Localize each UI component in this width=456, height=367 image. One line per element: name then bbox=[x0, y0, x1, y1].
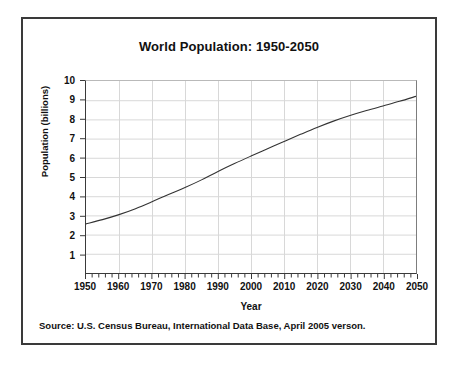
x-tick-label-2010: 2010 bbox=[273, 281, 295, 292]
x-tick-label-2000: 2000 bbox=[240, 281, 262, 292]
x-tick-label-1990: 1990 bbox=[207, 281, 229, 292]
y-tick-label-3: 3 bbox=[69, 210, 75, 221]
source-note: Source: U.S. Census Bureau, Internationa… bbox=[39, 320, 365, 331]
x-tick-label-2020: 2020 bbox=[306, 281, 328, 292]
y-tick-label-10: 10 bbox=[64, 75, 75, 86]
x-tick-label-2030: 2030 bbox=[339, 281, 361, 292]
x-tick-label-1970: 1970 bbox=[140, 281, 162, 292]
chart-figure: World Population: 1950-2050 Population (… bbox=[21, 17, 437, 345]
x-axis-tick-labels: 1950196019701980199020002010202020302040… bbox=[85, 281, 417, 297]
y-axis-ticks bbox=[79, 80, 86, 275]
plot-inner bbox=[86, 81, 416, 273]
y-tick-label-2: 2 bbox=[69, 230, 75, 241]
x-tick-label-1950: 1950 bbox=[74, 281, 96, 292]
x-tick-label-1980: 1980 bbox=[173, 281, 195, 292]
x-tick-label-2040: 2040 bbox=[373, 281, 395, 292]
y-tick-label-1: 1 bbox=[69, 249, 75, 260]
y-tick-label-4: 4 bbox=[69, 191, 75, 202]
x-tick-label-2050: 2050 bbox=[406, 281, 428, 292]
plot-area bbox=[85, 80, 417, 274]
x-tick-label-1960: 1960 bbox=[107, 281, 129, 292]
page-title: World Population: 1950-2050 bbox=[23, 39, 435, 54]
y-tick-label-6: 6 bbox=[69, 152, 75, 163]
y-axis-tick-labels: 12345678910 bbox=[23, 80, 81, 274]
y-tick-label-8: 8 bbox=[69, 113, 75, 124]
x-axis-minor-ticks bbox=[85, 274, 418, 281]
x-axis-title: Year bbox=[85, 301, 417, 312]
data-series-world-population bbox=[86, 81, 416, 273]
y-tick-label-9: 9 bbox=[69, 94, 75, 105]
y-tick-label-7: 7 bbox=[69, 133, 75, 144]
y-tick-label-5: 5 bbox=[69, 172, 75, 183]
